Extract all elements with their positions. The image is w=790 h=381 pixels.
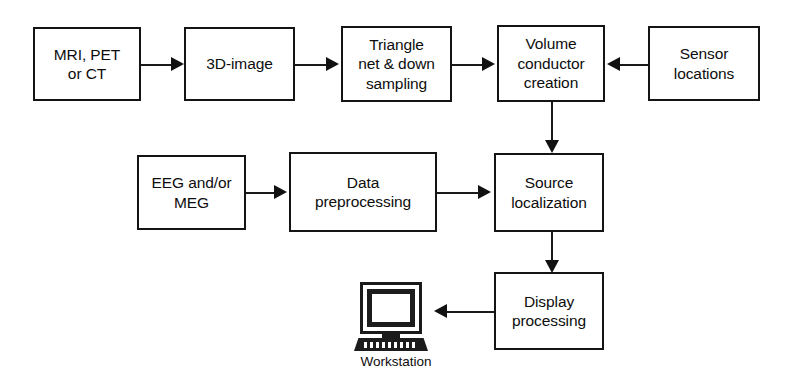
arrowhead-preprocessing-to-source [478, 185, 491, 199]
arrowhead-volume-to-source [545, 140, 559, 153]
connector-preprocessing-to-source [437, 192, 479, 194]
keyboard-keys [364, 342, 418, 348]
connector-triangle-to-volume [452, 64, 483, 66]
arrowhead-3dimage-to-triangle [326, 57, 339, 71]
node-display-processing[interactable]: Display processing [494, 272, 604, 350]
arrowhead-eeg-to-preprocessing [274, 185, 287, 199]
node-3d-image[interactable]: 3D-image [184, 27, 295, 101]
node-mri-pet-ct[interactable]: MRI, PET or CT [33, 27, 141, 101]
arrowhead-mri-to-3dimage [171, 57, 184, 71]
workstation-label: Workstation [350, 354, 442, 369]
node-data-preprocessing[interactable]: Data preprocessing [289, 152, 437, 232]
monitor-icon [360, 282, 422, 334]
node-sensor-locations[interactable]: Sensor locations [648, 26, 760, 101]
node-eeg-meg[interactable]: EEG and/or MEG [137, 155, 246, 230]
connector-sensor-to-volume [620, 64, 648, 66]
connector-volume-to-source [551, 102, 553, 142]
node-triangle-net[interactable]: Triangle net & down sampling [341, 26, 452, 102]
connector-eeg-to-preprocessing [246, 192, 275, 194]
connector-3dimage-to-triangle [295, 64, 327, 66]
arrowhead-triangle-to-volume [482, 57, 495, 71]
node-volume-conductor[interactable]: Volume conductor creation [497, 25, 605, 102]
connector-mri-to-3dimage [141, 64, 173, 66]
connector-source-to-display [551, 232, 553, 262]
flowchart-canvas: MRI, PET or CT 3D-image Triangle net & d… [0, 0, 790, 381]
arrowhead-source-to-display [545, 260, 559, 273]
monitor-screen [367, 289, 415, 327]
connector-display-to-workstation [447, 311, 494, 313]
arrowhead-sensor-to-volume [607, 57, 620, 71]
node-source-localization[interactable]: Source localization [494, 153, 604, 232]
workstation-icon: Workstation [352, 282, 438, 374]
